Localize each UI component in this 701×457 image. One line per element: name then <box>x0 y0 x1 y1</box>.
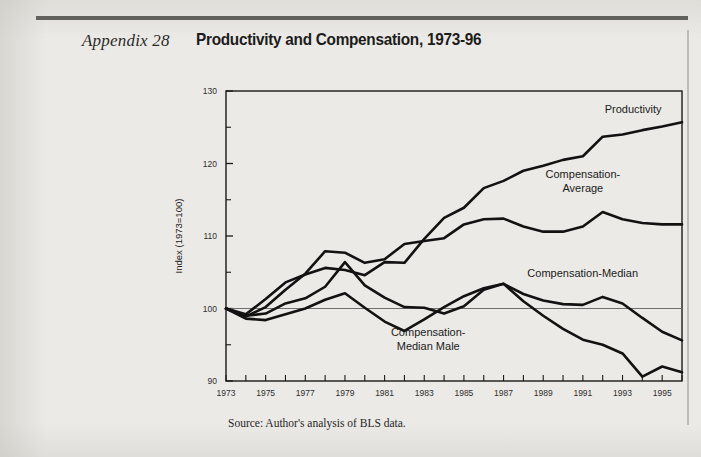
x-tick-label: 1981 <box>375 388 394 398</box>
series-label: Average <box>562 182 603 194</box>
series-line <box>226 122 682 314</box>
series-label: Compensation-Median <box>527 267 638 279</box>
x-tick-label: 1987 <box>494 388 513 398</box>
series-label: Compensation- <box>391 326 466 338</box>
series-label: Compensation- <box>546 168 621 180</box>
series-lines <box>226 122 682 376</box>
y-tick-label: 110 <box>203 231 217 241</box>
x-tick-label: 1989 <box>534 388 553 398</box>
series-label: Productivity <box>605 103 662 115</box>
x-tick-label: 1973 <box>217 388 236 398</box>
y-axis-title-text: Index (1973=100) <box>173 199 184 274</box>
x-tick-label: 1985 <box>454 388 473 398</box>
y-tick-label: 120 <box>203 159 217 169</box>
y-tick-label: 130 <box>203 86 217 96</box>
series-label: Median Male <box>397 340 460 352</box>
line-chart: 90100110120130 1973197519771979198119831… <box>0 0 701 457</box>
x-tick-label: 1977 <box>296 388 315 398</box>
y-axis-ticks: 90100110120130 <box>203 86 233 386</box>
chart-figure: 90100110120130 1973197519771979198119831… <box>0 0 701 457</box>
x-tick-label: 1983 <box>415 388 434 398</box>
source-note: Source: Author's analysis of BLS data. <box>228 417 406 429</box>
x-tick-label: 1975 <box>256 388 275 398</box>
x-tick-label: 1995 <box>653 388 672 398</box>
x-tick-label: 1991 <box>573 388 592 398</box>
x-tick-label: 1993 <box>613 388 632 398</box>
y-axis-title: Index (1973=100) <box>173 199 184 274</box>
x-tick-label: 1979 <box>335 388 354 398</box>
y-tick-label: 100 <box>203 304 217 314</box>
x-axis-ticks: 1973197519771979198119831985198719891991… <box>217 375 682 398</box>
y-tick-label: 90 <box>208 376 218 386</box>
